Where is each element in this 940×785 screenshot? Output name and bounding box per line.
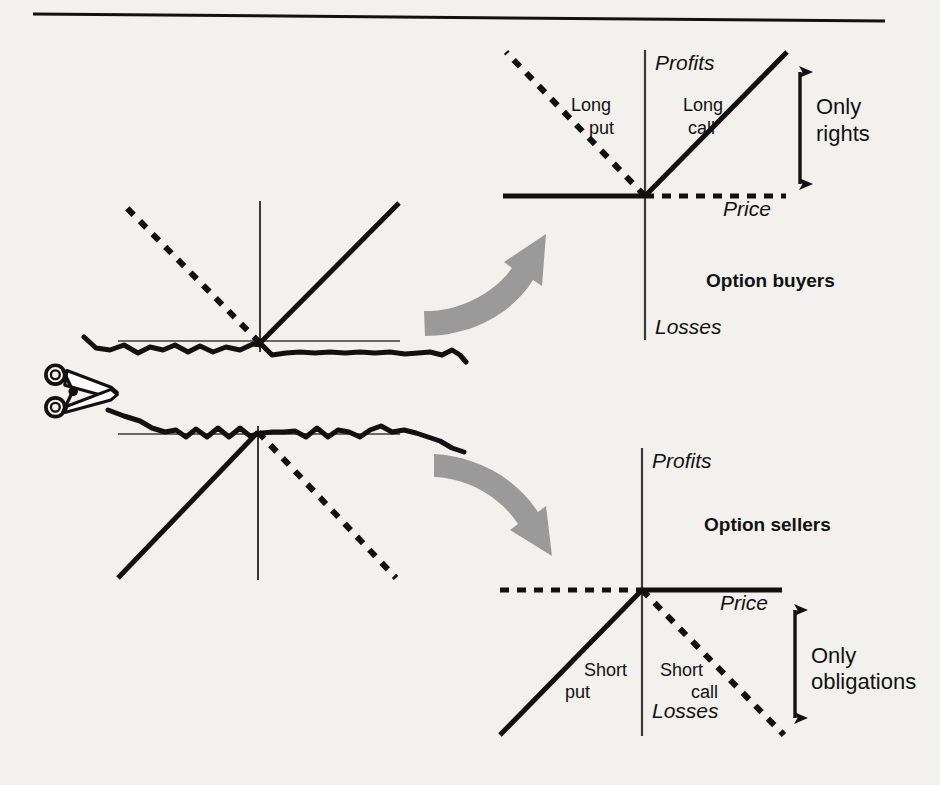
buyers-profits-label: Profits [655,52,715,74]
buyers-price-label: Price [723,198,771,220]
sellers-short-call-label-line2: call [691,683,718,702]
combined-short-put-line [118,432,258,578]
sellers-short-put-label-line1: Short [584,661,627,680]
sellers-price-label: Price [720,592,768,614]
sellers-profits-label: Profits [652,450,712,472]
buyers-long-put-line [506,52,645,196]
buyers-losses-label: Losses [655,316,722,338]
buyers-long-put-label-line2: put [589,119,614,138]
buyers-chart [503,50,800,340]
sellers-title: Option sellers [704,515,831,535]
buyers-bracket-label-line1: Only [816,95,861,118]
buyers-long-call-label-line2: call [688,119,715,138]
buyers-title: Option buyers [706,271,835,291]
combined-payoff-chart [46,201,466,580]
figure-page: Profits Losses Price Long put Long call … [0,0,940,785]
buyers-long-put-label-line1: Long [571,96,611,115]
buyers-bracket-label-line2: rights [816,122,870,145]
sellers-short-put-label-line2: put [565,683,590,702]
curved-arrow-up-right-icon [424,234,546,336]
sellers-losses-label: Losses [652,700,719,722]
curved-arrow-down-right-icon [434,454,552,556]
sellers-bracket-label-line1: Only [811,644,856,667]
sellers-short-call-label-line1: Short [660,661,703,680]
horizontal-rule [33,14,885,21]
combined-long-put-line [122,203,260,343]
cut-line-lower [108,410,464,452]
sellers-bracket-label-line2: obligations [811,670,916,693]
combined-short-call-line [258,432,396,578]
buyers-long-call-label-line1: Long [683,96,723,115]
combined-long-call-line [260,203,399,343]
figure-canvas [0,0,940,785]
